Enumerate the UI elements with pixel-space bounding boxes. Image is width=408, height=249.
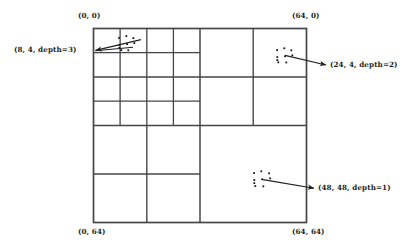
quadrant-top-left-subdivision [94,29,201,126]
quadtree-diagram-canvas [0,0,408,249]
corner-label-top-right: (64, 0) [292,12,320,19]
dot-cluster-48-48 [253,170,271,187]
quadrant-bottom-left-subdivision [94,126,201,223]
quadtree-diagram-page: (0, 0) (64, 0) (0, 64) (64, 64) (8, 4, d… [0,0,408,249]
callout-arrow-8-4-depth3 [96,40,142,51]
callout-arrow-24-4-depth2 [285,55,326,65]
callout-label-24-4-depth2: (24, 4, depth=2) [330,61,398,68]
quadrant-top-right-subdivision [200,29,307,126]
quadtree-grid [94,29,307,223]
corner-label-top-left: (0, 0) [78,12,100,19]
dot-cluster-24-4 [276,47,293,63]
corner-label-bottom-left: (0, 64) [78,228,106,235]
callout-label-8-4-depth3: (8, 4, depth=3) [14,46,77,53]
corner-label-bottom-right: (64, 64) [292,228,325,235]
callout-label-48-48-depth1: (48, 48, depth=1) [318,184,391,191]
